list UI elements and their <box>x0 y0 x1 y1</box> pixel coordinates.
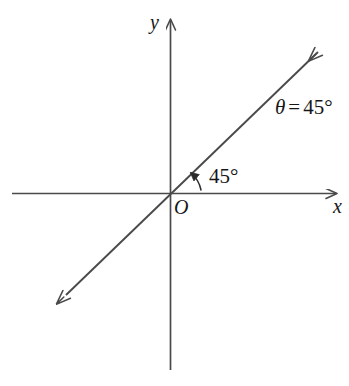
figure-canvas: y x O 45° θ=45° <box>0 0 349 386</box>
y-axis-label: y <box>150 12 159 32</box>
origin-label: O <box>174 197 188 217</box>
equals-sign: = <box>285 95 303 119</box>
theta-value: 45° <box>303 95 332 119</box>
angle-value-label: 45° <box>209 166 238 187</box>
theta-equation-label: θ=45° <box>275 97 333 118</box>
x-axis-label: x <box>333 196 342 216</box>
angle-arc <box>191 173 201 190</box>
theta-symbol: θ <box>275 95 285 119</box>
coordinate-plane-graphic <box>0 0 349 386</box>
